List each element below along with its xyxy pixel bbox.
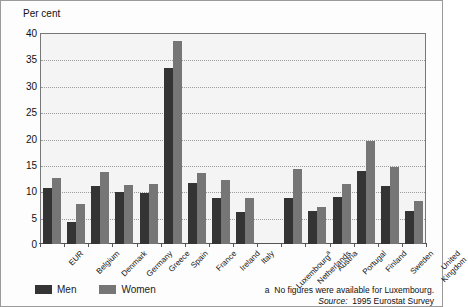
x-axis-tick xyxy=(233,243,234,247)
bar-group xyxy=(185,33,209,244)
x-axis-tick xyxy=(402,243,403,247)
bar-women xyxy=(390,167,399,244)
bar-women xyxy=(317,207,326,244)
bar-men xyxy=(212,198,221,244)
x-axis-tick xyxy=(137,243,138,247)
x-axis-tick xyxy=(112,243,113,247)
bar-men xyxy=(357,171,366,244)
y-axis-tick: 30 xyxy=(3,80,37,91)
x-axis-label-ireland: Ireland xyxy=(238,249,262,273)
bar-men xyxy=(140,193,149,244)
legend-swatch-women-icon xyxy=(99,285,116,294)
x-axis-tick xyxy=(185,243,186,247)
x-axis-tick xyxy=(257,243,258,247)
bar-women xyxy=(100,172,109,244)
legend-item-men: Men xyxy=(35,284,76,295)
legend-label-women: Women xyxy=(121,284,155,295)
x-axis-label-denmark: Denmark xyxy=(120,249,149,278)
bar-group xyxy=(209,33,233,244)
y-axis-tick: 5 xyxy=(3,212,37,223)
bar-women xyxy=(76,204,85,244)
source-label: Source: xyxy=(318,296,347,306)
bar-women xyxy=(245,198,254,244)
legend-item-women: Women xyxy=(99,284,155,295)
x-axis-label-eur: EUR xyxy=(67,249,85,267)
x-axis-tick xyxy=(88,243,89,247)
y-axis-tick: 10 xyxy=(3,186,37,197)
bar-group xyxy=(402,33,426,244)
bar-group xyxy=(137,33,161,244)
x-axis-tick xyxy=(354,243,355,247)
y-axis-tick-labels: 0510152025303540 xyxy=(1,1,37,307)
bar-men xyxy=(308,211,317,244)
x-axis-label-italy: Italy xyxy=(259,249,276,266)
x-axis-label-portugal: Portugal xyxy=(360,249,387,276)
legend-label-men: Men xyxy=(57,284,76,295)
bar-group xyxy=(64,33,88,244)
bar-women xyxy=(52,178,61,244)
bar-women xyxy=(414,201,423,244)
bar-men xyxy=(43,188,52,244)
source-line: Source: 1995 Eurostat Survey xyxy=(318,296,434,306)
bar-group xyxy=(354,33,378,244)
legend: Men Women xyxy=(35,284,156,295)
bar-men xyxy=(91,186,100,244)
x-axis-tick xyxy=(161,243,162,247)
bar-men xyxy=(333,197,342,244)
y-axis-tick: 0 xyxy=(3,239,37,250)
x-axis-tick xyxy=(281,243,282,247)
bar-group xyxy=(281,33,305,244)
x-axis-label-united-kingdom: UnitedKingdom xyxy=(433,249,468,284)
bar-men xyxy=(115,192,124,244)
bar-men xyxy=(284,198,293,244)
x-axis-tick xyxy=(40,243,41,247)
bar-series-container xyxy=(40,33,426,244)
bar-group xyxy=(233,33,257,244)
y-axis-tick: 20 xyxy=(3,133,37,144)
x-axis-tick xyxy=(426,243,427,247)
bar-men xyxy=(188,183,197,244)
bar-women xyxy=(197,173,206,244)
x-axis-tick xyxy=(209,243,210,247)
bar-group xyxy=(257,33,281,244)
bar-women xyxy=(173,41,182,244)
bar-men xyxy=(236,212,245,244)
bar-men xyxy=(381,186,390,244)
y-axis-tick: 40 xyxy=(3,28,37,39)
x-axis-label-finland: Finland xyxy=(384,249,409,274)
bar-women xyxy=(342,184,351,244)
x-axis-label-spain: Spain xyxy=(189,249,210,270)
bar-group xyxy=(378,33,402,244)
y-axis-tick: 35 xyxy=(3,54,37,65)
x-axis-tick xyxy=(305,243,306,247)
bar-group xyxy=(40,33,64,244)
bar-women xyxy=(149,184,158,244)
bar-women xyxy=(124,185,133,244)
y-axis-tick: 25 xyxy=(3,107,37,118)
x-axis-tick xyxy=(378,243,379,247)
bar-women xyxy=(366,141,375,244)
bar-group xyxy=(161,33,185,244)
bar-group xyxy=(305,33,329,244)
bar-women xyxy=(293,169,302,244)
x-axis-tick xyxy=(64,243,65,247)
x-axis-label-france: France xyxy=(214,249,238,273)
source-value: 1995 Eurostat Survey xyxy=(352,296,434,306)
footnote: a No figures were available for Luxembou… xyxy=(265,285,434,296)
bar-group xyxy=(88,33,112,244)
footnote-marker: a xyxy=(265,285,270,295)
legend-swatch-men-icon xyxy=(35,285,52,294)
bar-men xyxy=(405,211,414,244)
bar-men xyxy=(164,68,173,244)
y-axis-tick: 15 xyxy=(3,159,37,170)
x-axis-tick xyxy=(330,243,331,247)
bar-women xyxy=(221,180,230,244)
bar-group xyxy=(112,33,136,244)
x-axis-label-sweden: Sweden xyxy=(408,249,435,276)
bar-group xyxy=(330,33,354,244)
bar-men xyxy=(67,222,76,244)
x-axis-label-belgium: Belgium xyxy=(95,249,122,276)
